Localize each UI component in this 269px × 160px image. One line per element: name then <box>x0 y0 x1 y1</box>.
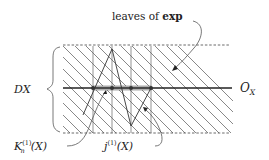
j1-label: j(1)(X) <box>101 139 133 153</box>
ox-label: OX <box>240 81 256 97</box>
dx-brace-icon <box>47 47 60 132</box>
j-arrow-icon <box>146 110 162 146</box>
diagram-canvas: leaves of exp DX OX K(1)n(X) j(1)(X) <box>0 0 269 160</box>
k1n-label: K(1)n(X) <box>13 139 47 155</box>
leaves-of-exp-label: leaves of exp <box>112 10 183 22</box>
leaves-arrow-icon <box>175 21 201 68</box>
dx-label: DX <box>13 83 32 96</box>
k-arrowhead-icon <box>103 90 107 94</box>
k-arrow-icon <box>67 92 105 146</box>
